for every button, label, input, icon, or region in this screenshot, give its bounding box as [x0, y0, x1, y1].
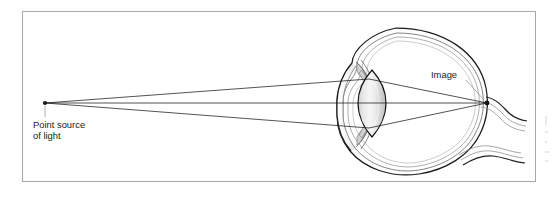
- figure-container: Point source of light Image: [0, 0, 553, 202]
- image-point-dot: [485, 101, 490, 106]
- eye-optics-diagram: Point source of light Image: [0, 0, 553, 202]
- figure-frame: [23, 12, 536, 182]
- point-source-label-line1: Point source: [33, 119, 85, 130]
- point-source-dot: [43, 101, 47, 105]
- point-source-label-line2: of light: [33, 130, 61, 141]
- image-label: Image: [431, 69, 457, 80]
